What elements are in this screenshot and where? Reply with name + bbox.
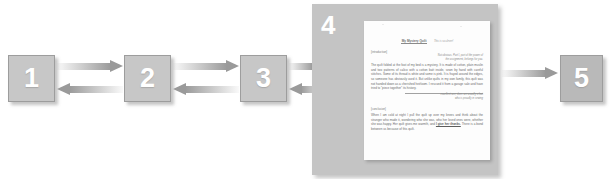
- intro-annotation-line-2: the assignment, belongs for you.: [415, 58, 483, 62]
- arrow-1-to-2: [57, 60, 123, 73]
- arrow-shaft: [289, 63, 313, 70]
- step-box-3[interactable]: 3: [240, 55, 287, 102]
- document-title: My Mystery Quilt: [401, 39, 428, 44]
- arrow-head: [226, 60, 239, 72]
- intro-paragraph: The quilt folded at the foot of my bed i…: [371, 63, 483, 91]
- document-title-note: This is so clever!: [434, 40, 453, 43]
- conclusion-paragraph: When I am cold at night I pull the quilt…: [371, 113, 483, 132]
- arrow-shaft: [57, 63, 111, 70]
- arrow-head: [110, 60, 123, 72]
- arrow-2-to-1: [57, 83, 123, 96]
- process-diagram: 1 2 3 4 My My: [0, 0, 611, 179]
- step-number-2: 2: [140, 65, 155, 92]
- arrow-head: [173, 83, 186, 95]
- conclusion-tag: [conclusion]: [371, 107, 483, 111]
- step-number-5: 5: [574, 65, 589, 92]
- arrow-head: [545, 67, 558, 79]
- step-box-5[interactable]: 5: [560, 55, 603, 102]
- arrow-head: [57, 83, 70, 95]
- step-box-2[interactable]: 2: [124, 55, 171, 102]
- step-number-3: 3: [256, 65, 271, 92]
- scan-artifact: [382, 24, 384, 25]
- arrow-shaft: [502, 70, 546, 77]
- document-title-row: My Mystery Quilt This is so clever!: [371, 28, 483, 46]
- step-number-4: 4: [321, 12, 335, 38]
- arrow-4-to-5: [502, 67, 558, 80]
- conclusion-emphasis: I give her thanks.: [436, 122, 461, 126]
- arrow-head: [289, 83, 302, 95]
- arrow-shaft: [69, 86, 123, 93]
- section-spacer: [371, 100, 483, 105]
- arrow-2-to-3: [173, 60, 239, 73]
- arrow-3-to-2: [173, 83, 239, 96]
- step-panel-4[interactable]: 4 My Mystery Quilt This is so clever! [i…: [312, 4, 498, 175]
- arrow-shaft: [173, 63, 227, 70]
- scan-artifact: [460, 26, 462, 27]
- arrow-shaft: [185, 86, 239, 93]
- step-number-1: 1: [24, 65, 39, 92]
- step-box-1[interactable]: 1: [8, 55, 55, 102]
- document-page[interactable]: My Mystery Quilt This is so clever! [int…: [364, 21, 490, 160]
